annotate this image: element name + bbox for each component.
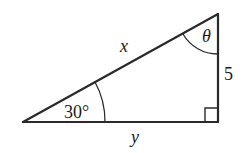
- right-angle-marker: [205, 108, 218, 122]
- angle-arc-theta: [183, 34, 218, 54]
- label-height: 5: [224, 64, 233, 84]
- label-angle-theta: θ: [202, 26, 211, 46]
- angle-arc-30: [95, 82, 105, 122]
- label-angle-30: 30°: [64, 102, 89, 122]
- label-base: y: [129, 127, 139, 147]
- hypotenuse-side: [23, 14, 218, 122]
- triangle-diagram: x y 5 30° θ: [0, 0, 248, 153]
- label-hypotenuse: x: [119, 36, 128, 56]
